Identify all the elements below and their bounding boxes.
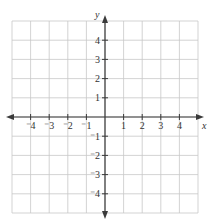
y-axis-arrow-down-icon xyxy=(102,211,108,219)
x-tick-label: 4 xyxy=(177,120,182,131)
x-tick-label: ⁻1 xyxy=(81,120,91,131)
y-tick-label: 3 xyxy=(95,54,100,65)
y-tick-label: ⁻4 xyxy=(90,188,100,199)
coordinate-plane: ⁻4⁻3⁻2⁻112344321⁻1⁻2⁻3⁻4 x y xyxy=(0,0,211,219)
axes xyxy=(6,15,204,219)
x-tick-label: ⁻3 xyxy=(44,120,54,131)
x-tick-label: ⁻2 xyxy=(63,120,73,131)
y-tick-label: ⁻1 xyxy=(90,131,100,142)
x-tick-label: 2 xyxy=(140,120,145,131)
y-axis-label: y xyxy=(94,9,100,20)
x-tick-label: 1 xyxy=(121,120,126,131)
y-tick-label: ⁻3 xyxy=(90,169,100,180)
y-tick-label: 1 xyxy=(95,92,100,103)
y-tick-label: 2 xyxy=(95,73,100,84)
x-tick-label: 3 xyxy=(158,120,163,131)
x-tick-label: ⁻4 xyxy=(26,120,36,131)
x-axis-label: x xyxy=(201,120,207,131)
y-axis-arrow-up-icon xyxy=(102,15,108,23)
x-axis-arrow-left-icon xyxy=(6,114,14,120)
y-tick-label: ⁻2 xyxy=(90,150,100,161)
y-tick-label: 4 xyxy=(95,35,100,46)
